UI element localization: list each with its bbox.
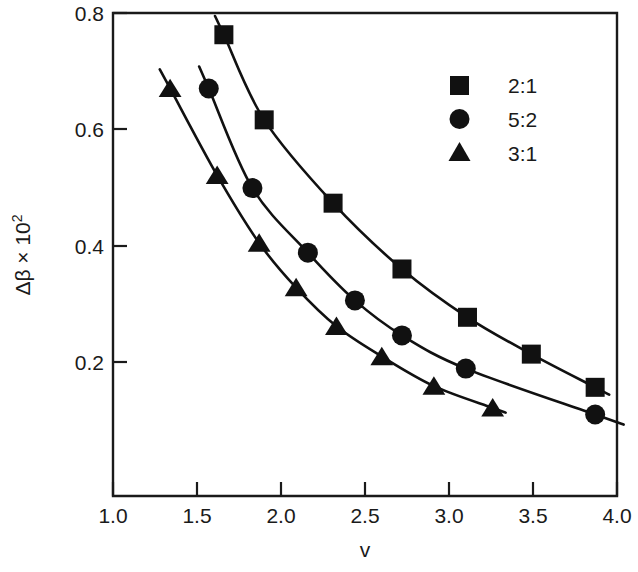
legend-marker-circle-icon [450,109,470,129]
data-point-circle [456,359,476,379]
data-point-circle [242,178,262,198]
y-axis-title: Δβ × 102 [9,214,34,295]
data-point-square [458,308,477,327]
legend-label-3-1: 3:1 [508,142,537,165]
y-tick-label-0.4: 0.4 [75,235,105,258]
x-tick-label-2.5: 2.5 [350,504,379,527]
x-axis-title: v [360,538,371,561]
y-tick-label-0.2: 0.2 [75,351,104,374]
data-point-circle [392,325,412,345]
y-axis-title-exponent: 2 [9,214,25,222]
chart-figure: 0.8 0.6 0.4 0.2 1.0 1.5 2.0 2.5 3.0 3.5 … [0,0,638,572]
y-tick-label-0.8: 0.8 [75,2,104,25]
data-point-square [392,259,411,278]
legend-label-5-2: 5:2 [508,108,537,131]
data-point-circle [345,290,365,310]
x-tick-label-2.0: 2.0 [266,504,295,527]
legend-marker-square-icon [450,76,469,95]
data-point-circle [199,78,219,98]
data-point-square [324,194,343,213]
data-point-square [255,110,274,129]
data-point-square [214,25,233,44]
data-point-circle [585,404,605,424]
x-tick-label-3.0: 3.0 [434,504,463,527]
data-point-square [522,345,541,364]
data-point-square [586,378,605,397]
y-tick-label-0.6: 0.6 [75,118,104,141]
x-tick-label-4.0: 4.0 [602,504,631,527]
data-point-circle [298,243,318,263]
y-axis-title-base: Δβ × 10 [11,222,34,295]
legend-label-2-1: 2:1 [508,74,537,97]
chart-background [0,0,638,572]
x-tick-label-1.5: 1.5 [182,504,211,527]
svg-text:Δβ × 102: Δβ × 102 [9,214,34,295]
x-tick-label-1.0: 1.0 [98,504,127,527]
x-tick-label-3.5: 3.5 [518,504,547,527]
